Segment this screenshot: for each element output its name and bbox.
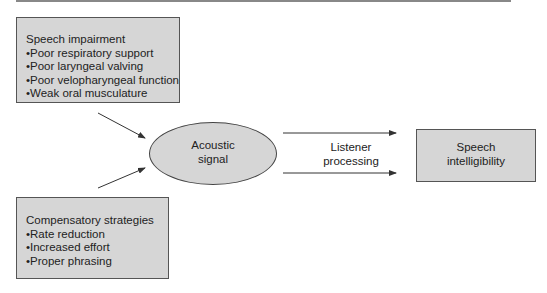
intelligibility-line2: intelligibility [417,155,535,169]
impairment-item: •Weak oral musculature [26,87,179,101]
compensatory-strategies-box: Compensatory strategies •Rate reduction … [16,197,169,279]
compensatory-item: •Increased effort [26,241,168,255]
acoustic-line1: Acoustic [150,139,276,153]
arrow-compensatory-to-signal [98,168,145,188]
impairment-item: •Poor respiratory support [26,47,179,61]
speech-intelligibility-box: Speech intelligibility [416,129,536,182]
intelligibility-line1: Speech [417,141,535,155]
impairment-item: •Poor velopharyngeal function [26,74,179,88]
impairment-title: Speech impairment [26,33,179,47]
speech-impairment-box: Speech impairment •Poor respiratory supp… [16,17,180,103]
acoustic-line2: signal [150,153,276,167]
listener-line2: processing [312,154,390,168]
impairment-item: •Poor laryngeal valving [26,60,179,74]
listener-line1: Listener [312,140,390,154]
acoustic-signal-ellipse: Acoustic signal [149,122,277,185]
arrow-impairment-to-signal [98,113,145,138]
compensatory-item: •Rate reduction [26,228,168,242]
compensatory-item: •Proper phrasing [26,255,168,269]
listener-processing-label: Listener processing [312,140,390,168]
compensatory-title: Compensatory strategies [26,214,168,228]
